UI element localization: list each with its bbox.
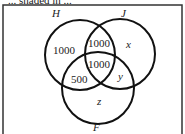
- venn-diagram: H J F 1000 1000 1000 500 x y z: [0, 0, 185, 134]
- region-j-only: x: [125, 38, 131, 50]
- set-label-f: F: [92, 121, 100, 133]
- region-h-f: 500: [71, 73, 88, 85]
- region-h-only: 1000: [53, 44, 76, 56]
- region-h-j: 1000: [88, 37, 111, 49]
- region-h-j-f: 1000: [88, 58, 111, 70]
- set-label-h: H: [51, 7, 61, 19]
- set-label-j: J: [121, 7, 127, 19]
- region-f-only: z: [96, 95, 102, 107]
- region-j-f: y: [117, 70, 123, 82]
